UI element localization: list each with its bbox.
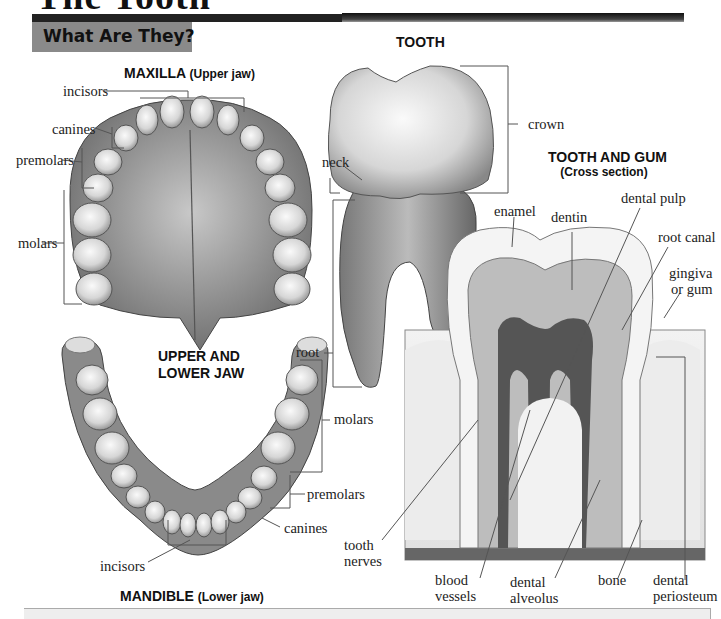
label-dental-pulp: dental pulp <box>621 190 686 206</box>
label-maxilla-molars: molars <box>18 235 57 251</box>
label-dental-alveolus: dental alveolus <box>510 574 558 606</box>
label-dental-alveolus-line1: dental <box>510 574 558 590</box>
label-mandible-incisors: incisors <box>100 558 145 574</box>
label-blood-vessels: blood vessels <box>435 572 476 604</box>
label-dental-periosteum-line2: periosteum <box>653 588 717 604</box>
label-gingiva: gingiva or gum <box>669 265 713 297</box>
label-blood-vessels-line2: vessels <box>435 588 476 604</box>
label-dental-periosteum-line1: dental <box>653 572 717 588</box>
label-blood-vessels-line1: blood <box>435 572 476 588</box>
jaw-center-heading: UPPER AND LOWER JAW <box>158 348 238 382</box>
mandible-heading: MANDIBLE (Lower jaw) <box>120 588 264 604</box>
label-maxilla-canines: canines <box>52 121 95 137</box>
bottom-box-edge <box>24 608 711 619</box>
label-tooth-neck: neck <box>322 154 349 170</box>
label-root-canal: root canal <box>658 229 716 245</box>
label-dental-periosteum: dental periosteum <box>653 572 717 604</box>
label-dentin: dentin <box>551 209 587 225</box>
mandible-heading-sub: (Lower jaw) <box>198 590 264 604</box>
label-bone: bone <box>598 572 626 588</box>
maxilla-illustration <box>70 96 312 350</box>
label-tooth-crown: crown <box>528 116 564 132</box>
label-tooth-nerves-line1: tooth <box>344 537 382 553</box>
jaw-center-line2: LOWER JAW <box>158 365 238 382</box>
label-dental-alveolus-line2: alveolus <box>510 590 558 606</box>
label-mandible-canines: canines <box>284 520 327 536</box>
label-enamel: enamel <box>494 203 536 219</box>
cross-section-heading-sub: (Cross section) <box>548 165 660 180</box>
maxilla-heading: MAXILLA (Upper jaw) <box>124 65 255 81</box>
label-mandible-premolars: premolars <box>307 486 365 502</box>
label-mandible-molars: molars <box>334 411 373 427</box>
maxilla-heading-sub: (Upper jaw) <box>190 67 255 81</box>
cross-section-illustration <box>405 227 705 560</box>
label-maxilla-incisors: incisors <box>63 83 108 99</box>
jaw-center-line1: UPPER AND <box>158 348 238 365</box>
maxilla-heading-text: MAXILLA <box>124 65 186 81</box>
label-maxilla-premolars: premolars <box>16 152 74 168</box>
cross-section-heading-text: TOOTH AND GUM <box>548 150 660 165</box>
label-gingiva-line2: or gum <box>669 281 713 297</box>
tooth-heading: TOOTH <box>396 34 445 50</box>
mandible-heading-text: MANDIBLE <box>120 588 194 604</box>
cross-section-heading: TOOTH AND GUM (Cross section) <box>548 150 660 180</box>
label-gingiva-line1: gingiva <box>669 265 713 281</box>
label-tooth-root: root <box>296 344 319 360</box>
label-tooth-nerves-line2: nerves <box>344 553 382 569</box>
label-tooth-nerves: tooth nerves <box>344 537 382 569</box>
